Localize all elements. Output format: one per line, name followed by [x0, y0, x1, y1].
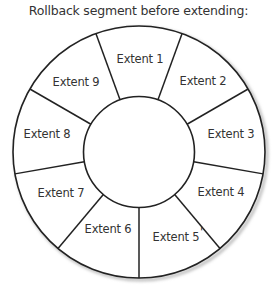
segment-label: Extent 4: [198, 185, 245, 199]
segment-label: Extent 7: [38, 186, 85, 200]
segment-label: Extent 6: [85, 222, 132, 236]
segment-label: Extent 1: [117, 52, 164, 66]
segment-label: Extent 9: [53, 75, 100, 89]
segment-label: Extent 2: [180, 74, 227, 88]
segment-label: Extent 5: [153, 230, 200, 244]
stray-mark: ': [200, 225, 203, 239]
rollback-segment-ring: Extent 1Extent 2Extent 3Extent 4Extent 5…: [0, 0, 277, 299]
inner-circle: [84, 97, 195, 208]
segment-label: Extent 8: [24, 127, 71, 141]
segment-label: Extent 3: [208, 127, 255, 141]
